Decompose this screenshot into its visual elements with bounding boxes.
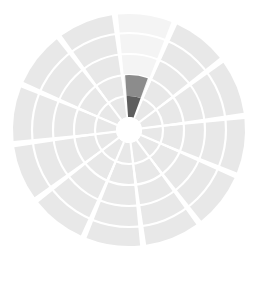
polar-rose-chart <box>0 0 260 291</box>
center-hole-layer <box>116 117 142 143</box>
center-hole <box>116 117 142 143</box>
rose-chart-svg <box>0 0 260 291</box>
